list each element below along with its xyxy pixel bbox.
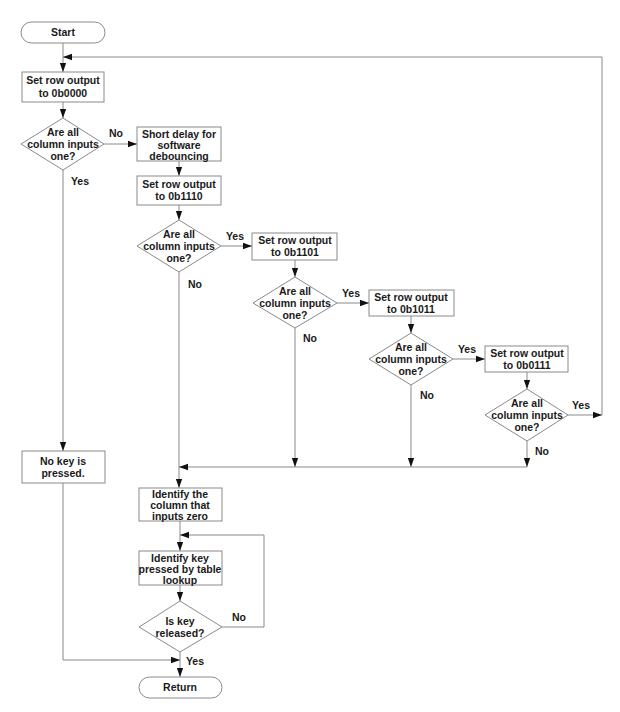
node-text-line: Set row output xyxy=(374,291,448,303)
node-text-line: Is key xyxy=(165,615,194,627)
node-text-line: to 0b1101 xyxy=(271,246,319,258)
process-identify-column: Identify the column that inputs zero xyxy=(139,488,222,522)
label-check2-no: No xyxy=(303,332,317,344)
node-text-line: to 0b1011 xyxy=(387,303,435,315)
label-check0-no: No xyxy=(109,127,123,139)
start-label: Start xyxy=(51,26,75,38)
node-text-line: Are all xyxy=(47,126,79,138)
label-check3-no: No xyxy=(420,389,434,401)
process-set-row-0b1110: Set row output to 0b1110 xyxy=(137,176,221,205)
process-debounce-delay: Short delay for software debouncing xyxy=(137,127,221,162)
return-label: Return xyxy=(163,681,197,693)
flowchart-canvas: Start Set row output to 0b0000 Are all c… xyxy=(0,0,620,712)
node-text-line: column inputs xyxy=(259,297,331,309)
node-text-line: inputs zero xyxy=(152,510,208,522)
node-text-line: pressed. xyxy=(41,467,84,479)
process-set-row-0b0111: Set row output to 0b0111 xyxy=(485,346,568,372)
label-check2-yes: Yes xyxy=(342,287,360,299)
start-terminal: Start xyxy=(21,22,105,43)
node-text-line: one? xyxy=(166,252,191,264)
process-set-row-0b1011: Set row output to 0b1011 xyxy=(369,290,454,316)
decision-all-columns-one-0: Are all column inputs one? xyxy=(21,118,104,170)
node-text-line: one? xyxy=(398,365,423,377)
node-text-line: debouncing xyxy=(149,150,209,162)
label-released-no: No xyxy=(232,611,246,623)
node-text-line: Are all xyxy=(279,285,311,297)
node-text-line: column inputs xyxy=(27,138,99,150)
node-text-line: Set row output xyxy=(258,234,332,246)
label-check3-yes: Yes xyxy=(458,343,476,355)
label-check1-yes: Yes xyxy=(226,230,244,242)
decision-all-columns-one-2: Are all column inputs one? xyxy=(253,277,337,328)
node-text-line: No key is xyxy=(40,455,86,467)
process-identify-key: Identify key pressed by table lookup xyxy=(139,551,222,586)
node-text-line: Set row output xyxy=(26,74,100,86)
node-text-line: one? xyxy=(50,150,75,162)
node-text-line: Set row output xyxy=(490,347,564,359)
node-text-line: lookup xyxy=(163,574,197,586)
node-text-line: Are all xyxy=(511,397,543,409)
label-check4-no: No xyxy=(535,445,549,457)
node-text-line: to 0b0000 xyxy=(39,87,88,99)
process-set-row-0b1101: Set row output to 0b1101 xyxy=(252,233,337,260)
node-text-line: column inputs xyxy=(143,240,215,252)
node-text-line: released? xyxy=(155,627,204,639)
node-text-line: one? xyxy=(282,309,307,321)
decision-key-released: Is key released? xyxy=(139,601,222,652)
label-released-yes: Yes xyxy=(186,655,204,667)
decision-all-columns-one-1: Are all column inputs one? xyxy=(137,220,221,272)
node-text-line: Are all xyxy=(395,341,427,353)
return-terminal: Return xyxy=(139,677,222,698)
node-text-line: one? xyxy=(514,421,539,433)
decision-all-columns-one-4: Are all column inputs one? xyxy=(485,389,568,441)
process-no-key-pressed: No key is pressed. xyxy=(22,451,105,483)
process-set-row-0b0000: Set row output to 0b0000 xyxy=(22,72,104,102)
decision-all-columns-one-3: Are all column inputs one? xyxy=(369,333,453,385)
label-check4-yes: Yes xyxy=(572,399,590,411)
node-text-line: Set row output xyxy=(142,178,216,190)
node-text-line: Are all xyxy=(163,228,195,240)
node-text-line: column inputs xyxy=(491,409,563,421)
label-check1-no: No xyxy=(188,278,202,290)
label-check0-yes: Yes xyxy=(71,175,89,187)
node-text-line: column inputs xyxy=(375,353,447,365)
node-text-line: to 0b0111 xyxy=(503,359,550,371)
node-text-line: to 0b1110 xyxy=(155,190,202,202)
